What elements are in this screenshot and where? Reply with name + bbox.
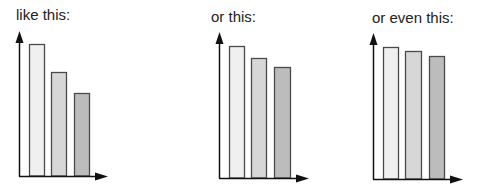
charts-canvas xyxy=(0,0,479,190)
bar xyxy=(30,45,45,177)
x-axis-arrow-icon xyxy=(296,175,309,183)
bar xyxy=(406,52,422,180)
bar xyxy=(252,59,267,179)
bar xyxy=(52,73,67,177)
bar xyxy=(275,68,291,179)
bar xyxy=(230,47,245,179)
y-axis-arrow-icon xyxy=(216,32,224,44)
x-axis-arrow-icon xyxy=(95,173,108,181)
x-axis-arrow-icon xyxy=(450,176,463,184)
y-axis-arrow-icon xyxy=(370,33,378,45)
bar xyxy=(430,57,445,180)
y-axis-arrow-icon xyxy=(16,31,24,43)
bar xyxy=(384,48,399,180)
bar xyxy=(75,94,90,177)
